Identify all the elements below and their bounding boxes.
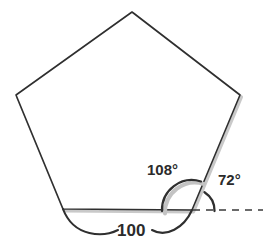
side-length-label: 100 [117, 221, 145, 240]
pentagon-diagram-svg: 108° 72° 100 [0, 0, 267, 240]
geometry-figure: 108° 72° 100 [0, 0, 267, 240]
exterior-angle-arc-72 [205, 192, 215, 211]
interior-angle-label: 108° [147, 161, 178, 178]
exterior-angle-label: 72° [218, 171, 241, 188]
